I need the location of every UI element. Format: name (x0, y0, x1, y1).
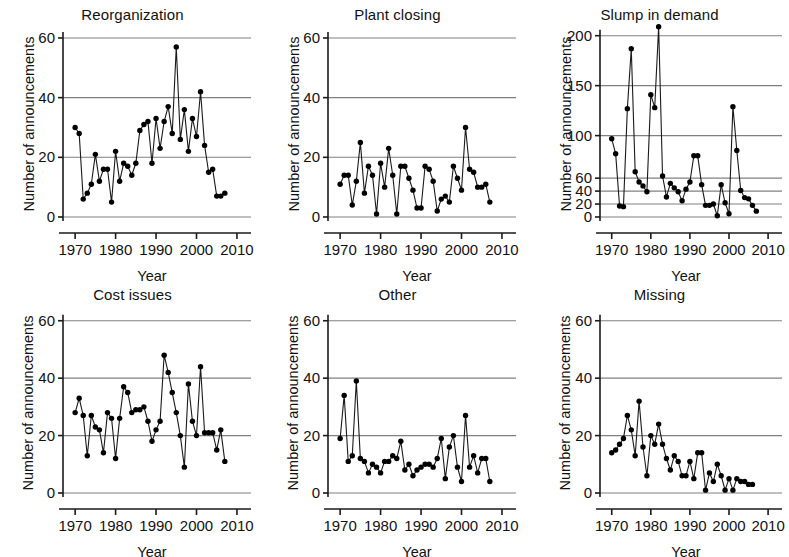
figure-panel-grid: Reorganization 0204060197019801990200020… (0, 0, 789, 557)
data-point (93, 152, 98, 157)
data-point (730, 104, 735, 109)
data-point (447, 444, 452, 449)
y-tick-label: 0 (47, 485, 55, 500)
data-point (632, 453, 637, 458)
y-tick-label: 40 (303, 90, 320, 105)
data-point (186, 381, 191, 386)
panel-other: Other 020406019701980199020002010Number … (265, 280, 530, 557)
data-point (711, 479, 716, 484)
y-tick-label: 0 (312, 209, 320, 224)
data-point (198, 89, 203, 94)
panel-reorganization: Reorganization 0204060197019801990200020… (0, 0, 265, 280)
x-tick-label: 2010 (478, 242, 526, 257)
y-axis-title: Number of announcements (557, 20, 573, 227)
data-point (738, 188, 743, 193)
data-point (109, 199, 114, 204)
y-tick-label: 60 (38, 313, 55, 328)
data-point (487, 199, 492, 204)
data-point (178, 433, 183, 438)
data-point (366, 470, 371, 475)
data-point (182, 464, 187, 469)
data-point (672, 453, 677, 458)
data-point (675, 189, 680, 194)
data-point (617, 441, 622, 446)
data-point (648, 433, 653, 438)
data-point (170, 131, 175, 136)
data-point (153, 427, 158, 432)
y-axis-title: Number of announcements (20, 20, 36, 227)
data-point (194, 433, 199, 438)
data-point (406, 462, 411, 467)
data-point (194, 134, 199, 139)
y-tick-label: 40 (38, 90, 55, 105)
y-axis-title: Number of announcements (285, 303, 301, 503)
data-point (483, 181, 488, 186)
data-point (165, 104, 170, 109)
panel-plant-closing: Plant closing 02040601970198019902000201… (265, 0, 530, 280)
data-point (722, 200, 727, 205)
data-point (621, 436, 626, 441)
data-point (718, 473, 723, 478)
data-point (625, 413, 630, 418)
data-point (487, 479, 492, 484)
data-point (435, 208, 440, 213)
data-point (76, 396, 81, 401)
data-point (726, 211, 731, 216)
data-point (715, 462, 720, 467)
data-point (129, 173, 134, 178)
data-point (718, 182, 723, 187)
data-point (406, 176, 411, 181)
data-point (346, 173, 351, 178)
data-point (374, 211, 379, 216)
data-point (613, 151, 618, 156)
data-point (664, 194, 669, 199)
data-point (378, 470, 383, 475)
data-point (668, 467, 673, 472)
data-point (402, 467, 407, 472)
panel-missing: Missing 020406019701980199020002010Numbe… (530, 280, 789, 557)
data-point (621, 204, 626, 209)
data-point (105, 167, 110, 172)
series-line (75, 355, 225, 467)
data-point (105, 410, 110, 415)
data-point (161, 119, 166, 124)
data-point (145, 419, 150, 424)
data-point (402, 164, 407, 169)
data-point (451, 433, 456, 438)
data-point (113, 456, 118, 461)
data-point (178, 137, 183, 142)
data-point (337, 181, 342, 186)
x-axis-title: Year (63, 544, 241, 557)
data-point (85, 190, 90, 195)
x-tick-label: 2010 (213, 242, 261, 257)
data-point (467, 464, 472, 469)
data-point (644, 473, 649, 478)
data-point (346, 459, 351, 464)
data-point (386, 459, 391, 464)
data-point (715, 213, 720, 218)
data-point (398, 439, 403, 444)
data-point (117, 416, 122, 421)
data-point (632, 169, 637, 174)
y-tick-label: 0 (47, 209, 55, 224)
data-point (699, 182, 704, 187)
data-point (97, 427, 102, 432)
y-tick-label: 0 (584, 485, 592, 500)
data-point (418, 205, 423, 210)
data-point (463, 413, 468, 418)
data-point (722, 487, 727, 492)
data-point (754, 208, 759, 213)
data-point (153, 116, 158, 121)
data-point (89, 181, 94, 186)
data-point (636, 179, 641, 184)
data-point (210, 430, 215, 435)
y-tick-label: 60 (303, 313, 320, 328)
data-point (455, 464, 460, 469)
data-point (378, 161, 383, 166)
data-point (72, 125, 77, 130)
data-point (149, 161, 154, 166)
data-point (190, 419, 195, 424)
data-point (350, 202, 355, 207)
data-point (471, 170, 476, 175)
y-tick-label: 20 (575, 428, 592, 443)
